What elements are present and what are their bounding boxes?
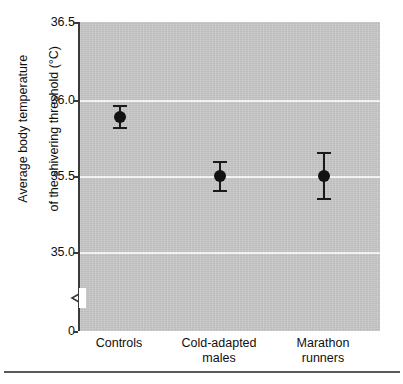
x-label-marathon-line1: Marathon bbox=[273, 336, 373, 351]
y-axis-title: Average body temperature of the shiverin… bbox=[0, 24, 78, 234]
y-tick-label-0: 0 bbox=[17, 325, 75, 337]
bottom-divider bbox=[4, 371, 400, 373]
x-label-controls: Controls bbox=[69, 336, 169, 351]
y-tick-0: 0 bbox=[12, 325, 75, 337]
figure-container: 36.5 36.0 35.5 35.0 0 Average body tempe… bbox=[0, 0, 403, 384]
axis-break-icon bbox=[70, 288, 86, 308]
error-bar-cap-top-marathon-runners bbox=[317, 152, 331, 154]
gridline-36-0 bbox=[80, 100, 380, 102]
marker-controls bbox=[114, 111, 126, 123]
x-label-cold-adapted-line1: Cold-adapted bbox=[169, 336, 269, 351]
marker-cold-adapted-males bbox=[214, 170, 226, 182]
error-bar-cap-top-controls bbox=[113, 105, 127, 107]
y-axis-title-line1: Average body temperature bbox=[16, 24, 32, 234]
marker-marathon-runners bbox=[318, 170, 330, 182]
x-label-cold-adapted-line2: males bbox=[169, 351, 269, 366]
x-label-cold-adapted-males: Cold-adapted males bbox=[169, 336, 269, 366]
y-tick-label-35-0: 35.0 bbox=[17, 246, 75, 258]
y-tick-mark-35-0 bbox=[73, 252, 78, 254]
x-label-controls-line1: Controls bbox=[69, 336, 169, 351]
error-bar-cap-bottom-controls bbox=[113, 127, 127, 129]
y-axis-title-line2: of the shivering threshold (°C) bbox=[47, 24, 63, 234]
error-bar-cap-top-cold-adapted-males bbox=[213, 161, 227, 163]
x-label-marathon-line2: runners bbox=[273, 351, 373, 366]
y-tick-35-0: 35.0 bbox=[12, 246, 75, 258]
error-bar-cap-bottom-marathon-runners bbox=[317, 198, 331, 200]
plot-area bbox=[79, 22, 380, 331]
gridline-35-5 bbox=[80, 176, 380, 178]
gridline-35-0 bbox=[80, 252, 380, 254]
x-label-marathon-runners: Marathon runners bbox=[273, 336, 373, 366]
y-tick-mark-0 bbox=[73, 331, 78, 333]
y-axis-line bbox=[78, 22, 80, 331]
error-bar-cap-bottom-cold-adapted-males bbox=[213, 190, 227, 192]
